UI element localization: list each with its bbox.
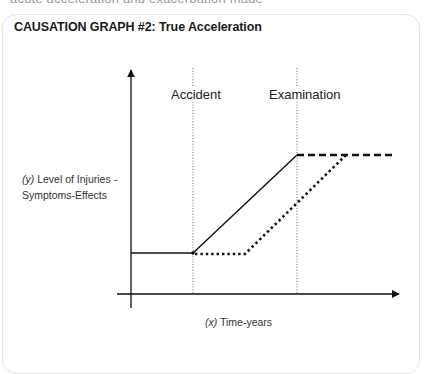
x-axis-var: (x) (205, 316, 217, 328)
y-axis-label-line1: Level of Injuries - (34, 173, 117, 185)
x-axis-label: (x) Time-years (205, 316, 272, 328)
dotted-progression-line (195, 155, 346, 254)
y-axis-label-line2: Symptoms-Effects (22, 189, 107, 201)
x-axis-label-text: Time-years (217, 316, 272, 328)
examination-label: Examination (266, 87, 344, 102)
accident-point (191, 251, 195, 255)
y-axis-var: (y) (22, 173, 34, 185)
accident-label: Accident (168, 87, 224, 102)
solid-injury-line (131, 155, 297, 253)
y-axis-label: (y) Level of Injuries - Symptoms-Effects (22, 171, 117, 203)
